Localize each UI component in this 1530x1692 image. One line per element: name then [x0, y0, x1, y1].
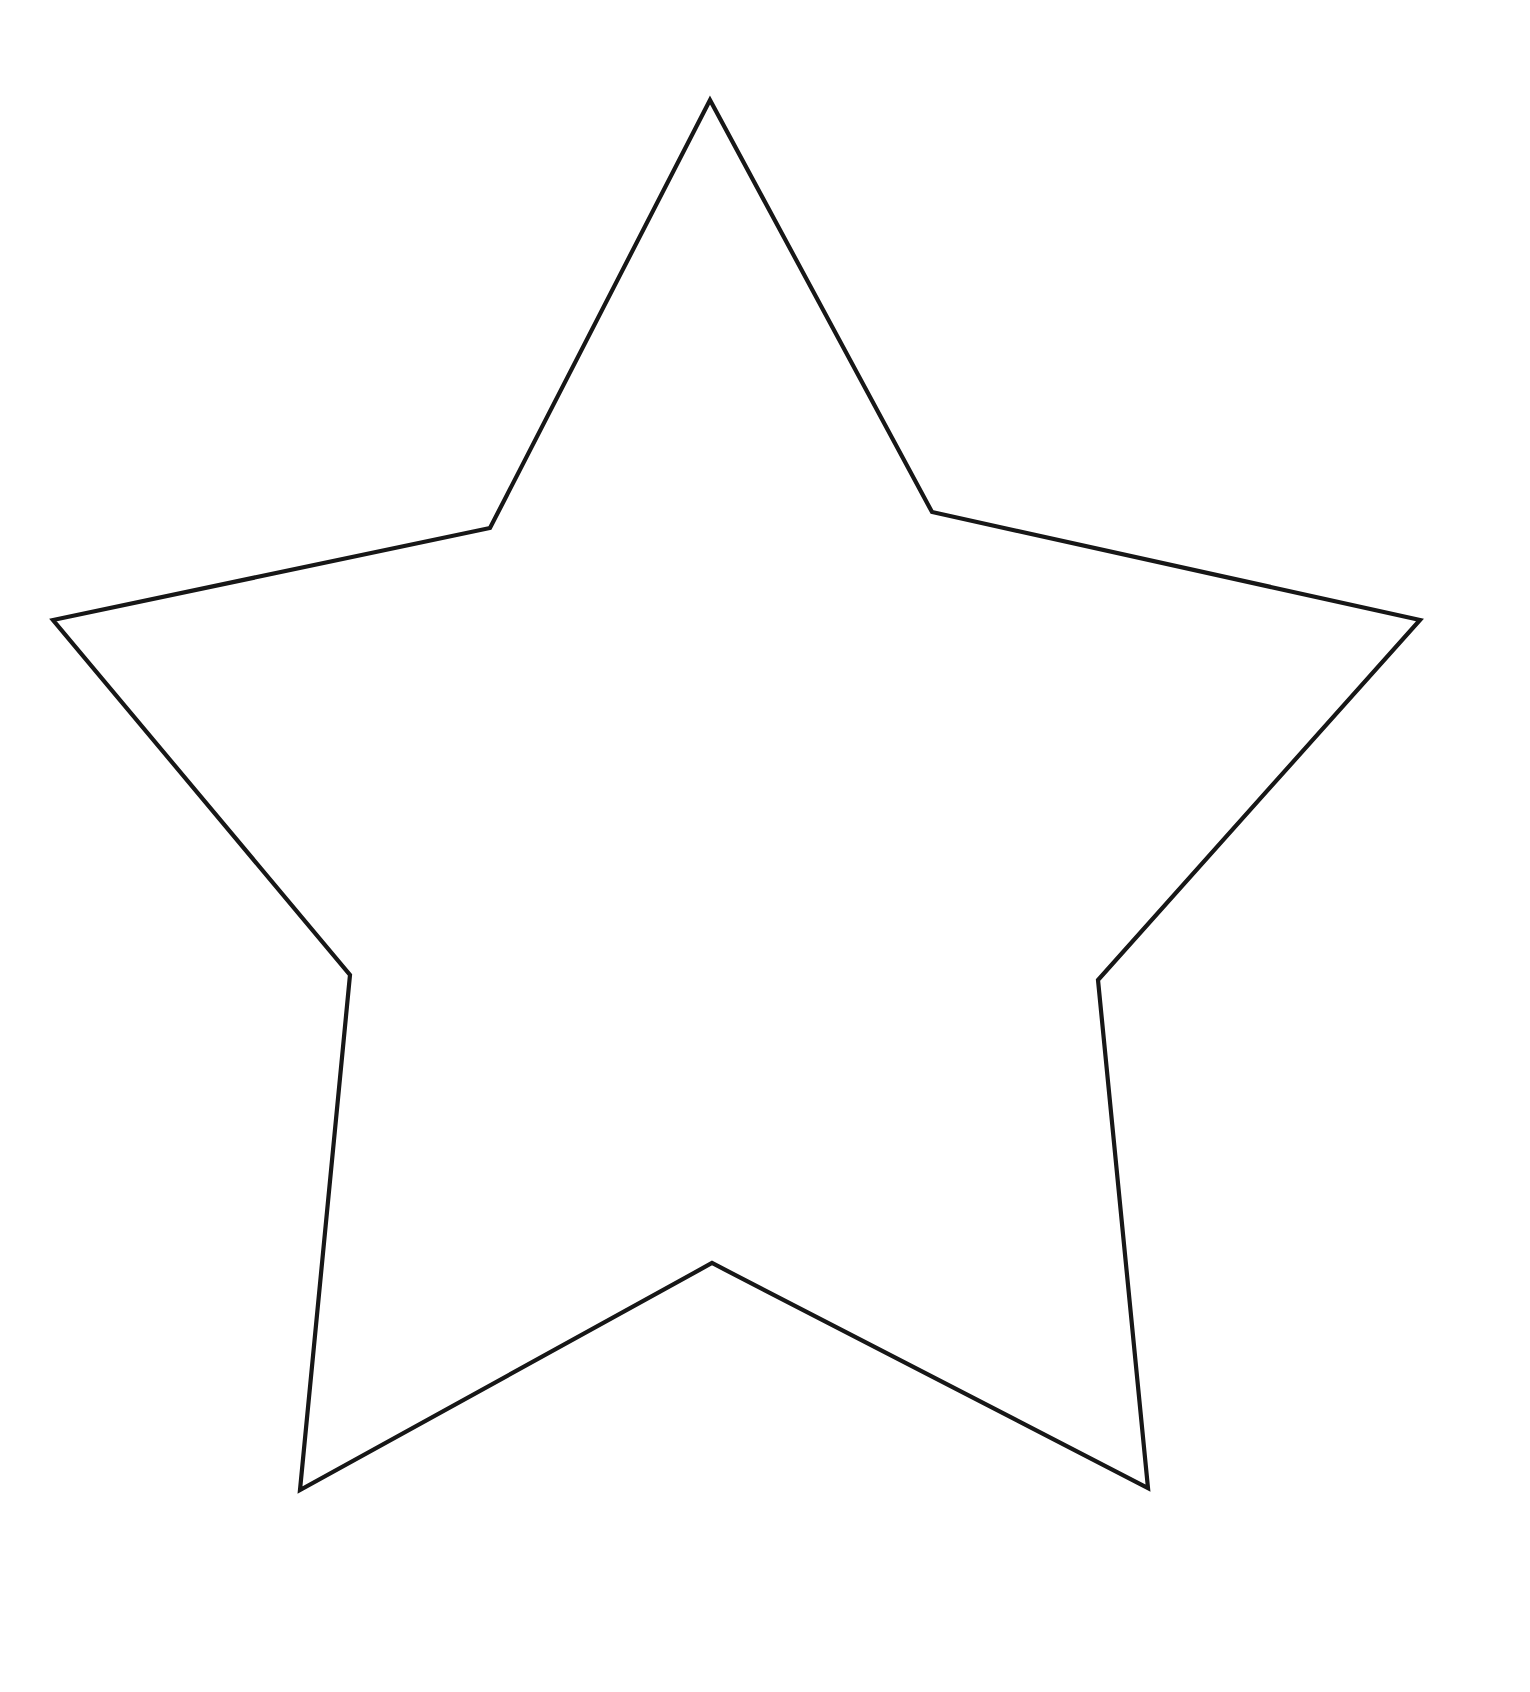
star-figure	[0, 0, 1530, 1692]
star-outline-shape	[53, 100, 1420, 1490]
page-canvas: Star Pattern	[0, 0, 1530, 1692]
